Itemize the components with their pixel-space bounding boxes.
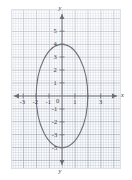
- y-tick-label--2: -2: [52, 119, 57, 126]
- y-tick-label-5: 5: [54, 28, 57, 35]
- y-axis-label-bottom: y: [59, 168, 62, 175]
- origin-label: 0: [56, 98, 59, 105]
- y-axis-label-top: y: [59, 5, 62, 12]
- x-tick-label-3: 3: [99, 99, 102, 106]
- x-axis-label-right: x: [121, 92, 124, 99]
- y-tick-label--1: -1: [52, 106, 57, 113]
- y-tick-label-1: 1: [54, 80, 57, 87]
- x-tick-label-1: 1: [73, 99, 76, 106]
- x-tick-label--3: -3: [20, 99, 25, 106]
- y-axis-arrow-up: [60, 14, 65, 19]
- y-axis: [60, 14, 65, 165]
- x-axis-arrow-left: [14, 94, 19, 99]
- y-tick-label-3: 3: [54, 54, 57, 61]
- y-tick-label-4: 4: [54, 41, 57, 48]
- x-tick-label--1: -1: [46, 99, 51, 106]
- y-tick-label-2: 2: [54, 67, 57, 74]
- x-axis-arrow-right: [112, 94, 117, 99]
- y-axis-arrow-down: [60, 160, 65, 165]
- figure-canvas: y y x 0 -3 -2 -1 1 3 5 4 3 2 1 -1 -2 -3 …: [0, 0, 132, 180]
- y-tick-label--5: -5: [52, 145, 57, 152]
- x-tick-label--2: -2: [33, 99, 38, 106]
- coordinate-plot: [0, 0, 132, 180]
- y-tick-label--3: -3: [52, 132, 57, 139]
